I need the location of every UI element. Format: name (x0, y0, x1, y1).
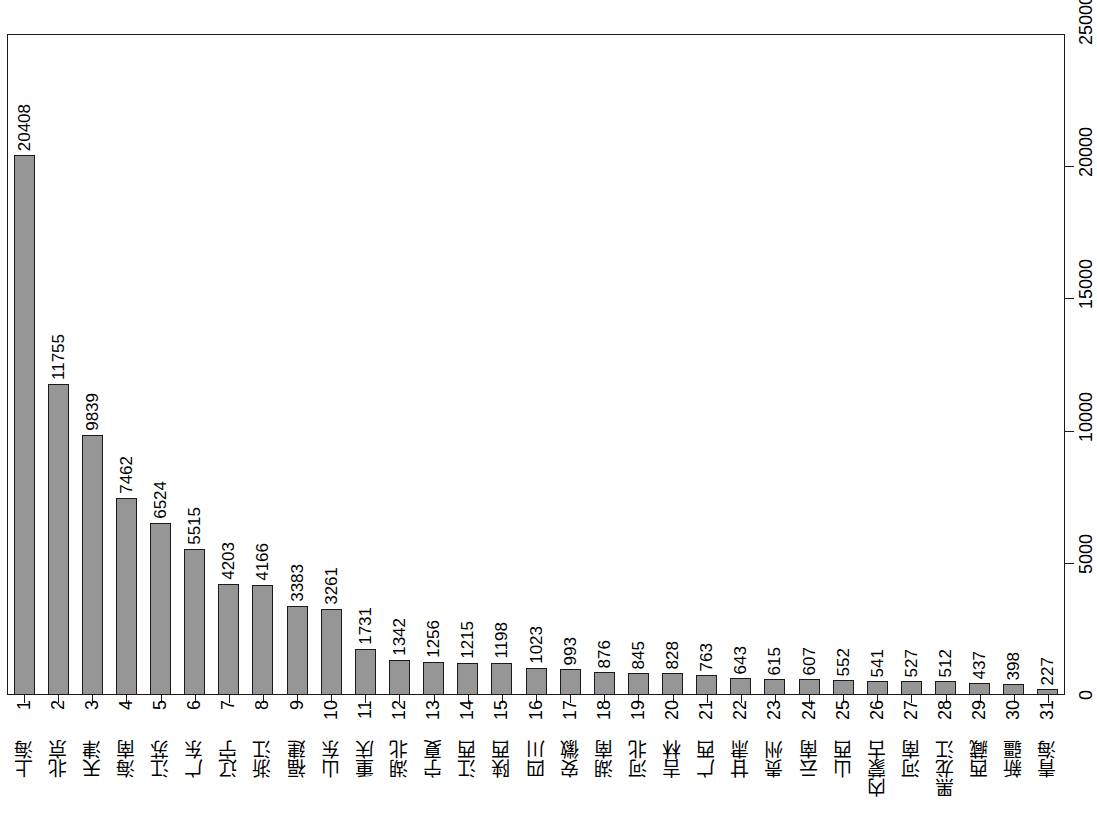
x-axis-index-label: 9 (287, 700, 308, 734)
y-axis-tick-label: 5000 (1076, 552, 1097, 574)
x-axis-index-label: 27 (901, 700, 922, 734)
x-axis-category-label: 内蒙古 (867, 740, 888, 818)
x-axis-label-group: 10山东 (321, 700, 342, 818)
plot-area-frame (7, 34, 1065, 695)
x-axis-category-label: 吉林 (662, 740, 683, 818)
x-axis-index-label: 10 (321, 700, 342, 734)
x-axis-category-label: 青海 (1037, 740, 1058, 818)
x-axis-label-group: 30新疆 (1003, 700, 1024, 818)
y-axis-tick-label: 25000 (1076, 23, 1097, 45)
x-axis-category-label: 河南 (901, 740, 922, 818)
x-axis-index-label: 3 (82, 700, 103, 734)
x-axis-index-label: 1 (14, 700, 35, 734)
x-axis-index-label: 26 (867, 700, 888, 734)
x-axis-label-group: 3天津 (82, 700, 103, 818)
x-axis-index-label: 24 (799, 700, 820, 734)
x-axis-label-group: 23贵州 (764, 700, 785, 818)
x-axis-category-label: 江西 (457, 740, 478, 818)
x-axis-label-group: 7辽宁 (218, 700, 239, 818)
x-axis-label-group: 4海南 (116, 700, 137, 818)
x-axis-label-group: 9福建 (287, 700, 308, 818)
x-axis-label-group: 31青海 (1037, 700, 1058, 818)
x-axis-labels: 1上海2北京3天津4海南5江苏6广东7辽宁8浙江9福建10山东11重庆12湖北1… (7, 700, 1065, 820)
x-axis-category-label: 贵州 (764, 740, 785, 818)
y-axis-tick-label: 15000 (1076, 287, 1097, 309)
y-axis-tick-label: 10000 (1076, 420, 1097, 442)
x-axis-label-group: 19河北 (628, 700, 649, 818)
x-axis-index-label: 17 (560, 700, 581, 734)
y-axis-labels: 0500010000150002000025000 (1062, 34, 1097, 695)
x-axis-label-group: 2北京 (48, 700, 69, 818)
x-axis-label-group: 26内蒙古 (867, 700, 888, 818)
x-axis-index-label: 5 (150, 700, 171, 734)
x-axis-index-label: 2 (48, 700, 69, 734)
x-axis-label-group: 11重庆 (355, 700, 376, 818)
x-axis-index-label: 29 (969, 700, 990, 734)
y-axis-tick-label: 20000 (1076, 155, 1097, 177)
x-axis-category-label: 江苏 (150, 740, 171, 818)
x-axis-label-group: 13宁夏 (423, 700, 444, 818)
x-axis-category-label: 宁夏 (423, 740, 444, 818)
x-axis-label-group: 18湖南 (594, 700, 615, 818)
x-axis-category-label: 陕西 (491, 740, 512, 818)
x-axis-index-label: 25 (833, 700, 854, 734)
x-axis-category-label: 海南 (116, 740, 137, 818)
x-axis-label-group: 15陕西 (491, 700, 512, 818)
x-axis-category-label: 广西 (696, 740, 717, 818)
x-axis-category-label: 黑龙江 (935, 740, 956, 818)
x-axis-index-label: 12 (389, 700, 410, 734)
x-axis-label-group: 5江苏 (150, 700, 171, 818)
x-axis-index-label: 8 (252, 700, 273, 734)
x-axis-index-label: 19 (628, 700, 649, 734)
x-axis-category-label: 辽宁 (218, 740, 239, 818)
x-axis-category-label: 重庆 (355, 740, 376, 818)
x-axis-label-group: 24云南 (799, 700, 820, 818)
x-axis-label-group: 1上海 (14, 700, 35, 818)
x-axis-index-label: 4 (116, 700, 137, 734)
x-axis-index-label: 6 (184, 700, 205, 734)
x-axis-label-group: 12湖北 (389, 700, 410, 818)
x-axis-index-label: 30 (1003, 700, 1024, 734)
x-axis-category-label: 新疆 (1003, 740, 1024, 818)
x-axis-label-group: 16四川 (526, 700, 547, 818)
x-axis-label-group: 8浙江 (252, 700, 273, 818)
x-axis-index-label: 15 (491, 700, 512, 734)
y-axis-tick-label: 0 (1076, 684, 1097, 706)
x-axis-category-label: 湖南 (594, 740, 615, 818)
x-axis-label-group: 28黑龙江 (935, 700, 956, 818)
x-axis-index-label: 18 (594, 700, 615, 734)
x-axis-index-label: 13 (423, 700, 444, 734)
x-axis-index-label: 14 (457, 700, 478, 734)
x-axis-category-label: 四川 (526, 740, 547, 818)
x-axis-label-group: 17安徽 (560, 700, 581, 818)
x-axis-category-label: 天津 (82, 740, 103, 818)
x-axis-label-group: 22甘肃 (730, 700, 751, 818)
x-axis-category-label: 安徽 (560, 740, 581, 818)
x-axis-label-group: 27河南 (901, 700, 922, 818)
x-axis-index-label: 22 (730, 700, 751, 734)
bar-chart-figure: 2040811755983974626524551542034166338332… (0, 0, 1097, 820)
x-axis-category-label: 云南 (799, 740, 820, 818)
x-axis-category-label: 福建 (287, 740, 308, 818)
x-axis-category-label: 西藏 (969, 740, 990, 818)
x-axis-index-label: 7 (218, 700, 239, 734)
x-axis-label-group: 25山西 (833, 700, 854, 818)
x-axis-index-label: 20 (662, 700, 683, 734)
x-axis-category-label: 河北 (628, 740, 649, 818)
x-axis-category-label: 北京 (48, 740, 69, 818)
x-axis-category-label: 山东 (321, 740, 342, 818)
x-axis-index-label: 11 (355, 700, 376, 734)
x-axis-label-group: 29西藏 (969, 700, 990, 818)
x-axis-label-group: 14江西 (457, 700, 478, 818)
x-axis-index-label: 16 (526, 700, 547, 734)
x-axis-category-label: 山西 (833, 740, 854, 818)
x-axis-label-group: 6广东 (184, 700, 205, 818)
x-axis-category-label: 上海 (14, 740, 35, 818)
x-axis-category-label: 广东 (184, 740, 205, 818)
x-axis-category-label: 甘肃 (730, 740, 751, 818)
x-axis-label-group: 21广西 (696, 700, 717, 818)
x-axis-index-label: 21 (696, 700, 717, 734)
x-axis-category-label: 浙江 (252, 740, 273, 818)
x-axis-index-label: 28 (935, 700, 956, 734)
x-axis-index-label: 23 (764, 700, 785, 734)
